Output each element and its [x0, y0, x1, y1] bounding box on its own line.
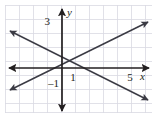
x-tick-5: 5 — [127, 71, 133, 83]
y-tick-neg1: –1 — [47, 77, 59, 89]
graph-canvas: y x 3 –1 1 5 — [0, 0, 158, 122]
axes — [9, 9, 149, 111]
y-axis-label: y — [66, 6, 72, 18]
x-axis-label: x — [139, 70, 145, 82]
y-tick-3: 3 — [45, 15, 51, 27]
grid-lines — [5, 5, 152, 113]
x-tick-1: 1 — [70, 71, 76, 83]
coordinate-graph-figure: y x 3 –1 1 5 — [0, 0, 158, 122]
